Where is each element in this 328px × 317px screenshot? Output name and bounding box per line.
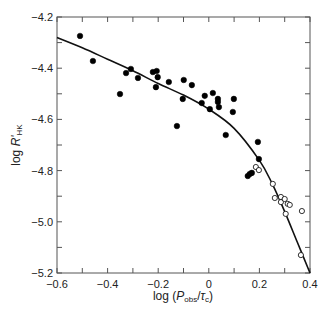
open-data-point <box>270 181 275 186</box>
filled-data-point <box>174 123 180 129</box>
x-axis-title: log (Pobs/τc) <box>153 289 213 304</box>
x-tick-label: 0.2 <box>252 278 267 290</box>
y-tick-label: −4.8 <box>31 165 53 177</box>
filled-data-point <box>255 139 261 145</box>
filled-data-point <box>117 91 123 97</box>
open-data-point <box>256 167 261 172</box>
filled-data-point <box>166 79 172 85</box>
open-data-point <box>282 196 287 201</box>
filled-data-point <box>181 77 187 83</box>
filled-data-point <box>230 109 236 115</box>
filled-data-point <box>77 33 83 39</box>
open-data-point <box>272 195 277 200</box>
y-tick-label: −5.0 <box>31 216 53 228</box>
filled-data-point <box>123 70 129 76</box>
y-tick-label: −4.4 <box>31 62 53 74</box>
filled-data-point <box>153 84 159 90</box>
open-data-point <box>283 211 288 216</box>
scatter-chart: −0.6−0.4−0.200.20.4 −4.2−4.4−4.6−4.8−5.0… <box>0 0 328 317</box>
plot-frame <box>57 17 310 273</box>
filled-data-point <box>223 132 229 138</box>
open-data-point <box>298 252 303 257</box>
filled-data-point <box>154 68 160 74</box>
filled-data-point <box>189 82 195 88</box>
y-axis-title: log R'HK <box>9 124 24 166</box>
data-points <box>77 33 304 258</box>
y-tick-labels: −4.2−4.4−4.6−4.8−5.0−5.2 <box>31 11 53 279</box>
filled-data-point <box>210 90 216 96</box>
x-tick-label: −0.6 <box>46 278 68 290</box>
filled-data-point <box>207 106 213 112</box>
filled-data-point <box>199 100 205 106</box>
filled-data-point <box>202 93 208 99</box>
open-data-point <box>299 208 304 213</box>
axis-ticks <box>57 17 310 273</box>
filled-data-point <box>135 75 141 81</box>
filled-data-point <box>215 99 221 105</box>
filled-data-point <box>256 156 262 162</box>
filled-data-point <box>128 66 134 72</box>
filled-data-point <box>231 96 237 102</box>
filled-data-point <box>180 96 186 102</box>
filled-data-point <box>90 58 96 64</box>
open-data-point <box>287 202 292 207</box>
filled-data-point <box>249 170 255 176</box>
fit-curve <box>57 37 310 273</box>
y-tick-label: −4.2 <box>31 11 53 23</box>
filled-data-point <box>216 104 222 110</box>
x-tick-label: −0.4 <box>97 278 119 290</box>
x-tick-label: 0.4 <box>302 278 317 290</box>
filled-data-point <box>155 74 161 80</box>
y-tick-label: −4.6 <box>31 113 53 125</box>
y-tick-label: −5.2 <box>31 267 53 279</box>
